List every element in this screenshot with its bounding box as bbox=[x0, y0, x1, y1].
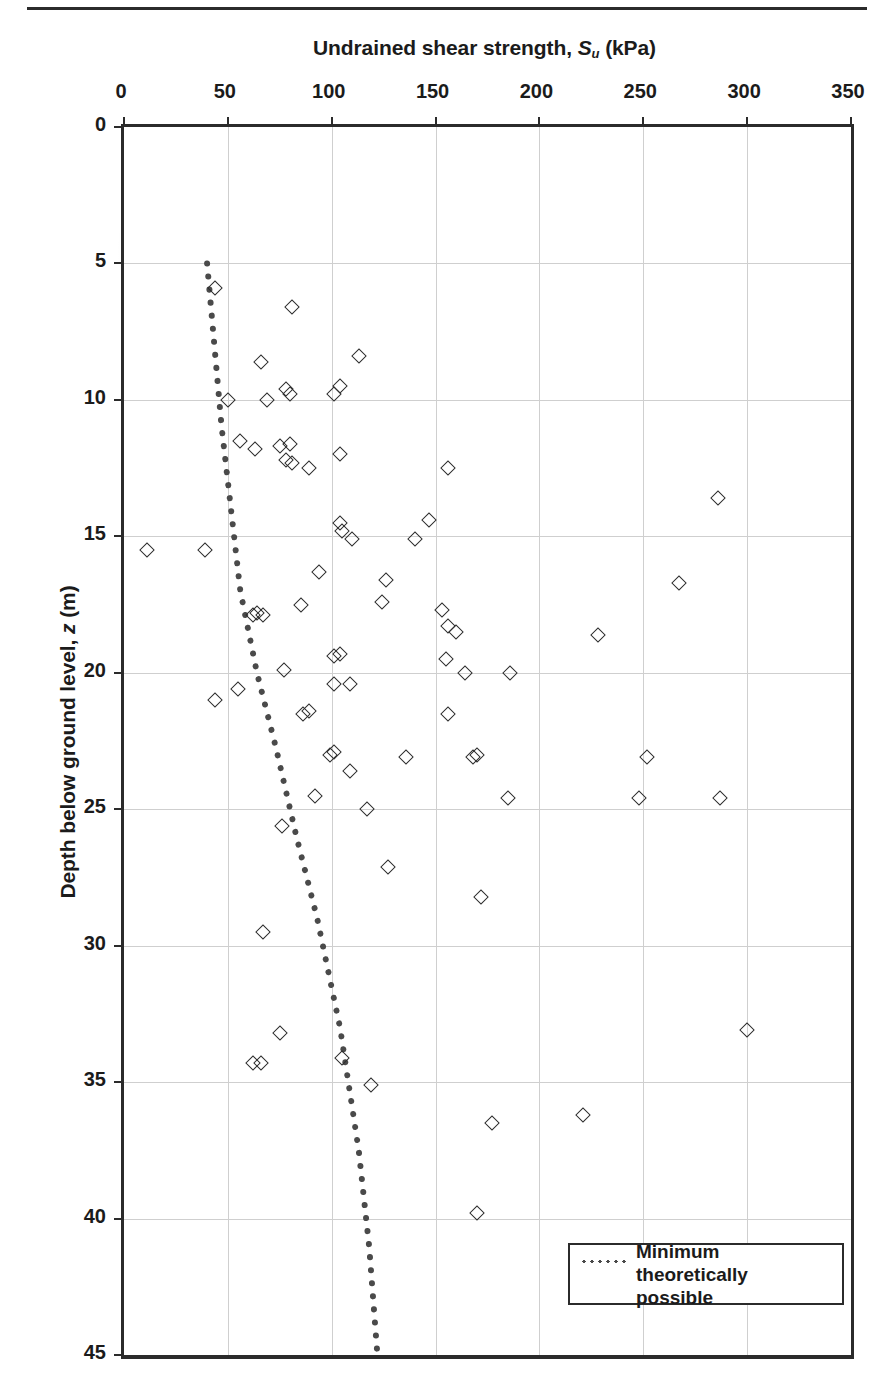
x-axis-title-pre: Undrained shear strength, bbox=[313, 36, 578, 59]
y-tick-label-0: 0 bbox=[60, 113, 106, 136]
gridline-vertical bbox=[332, 127, 333, 1355]
data-point-marker bbox=[208, 280, 224, 296]
y-tick-label-5: 5 bbox=[60, 249, 106, 272]
y-axis-tick bbox=[114, 1354, 124, 1356]
y-axis-tick bbox=[114, 1081, 124, 1083]
data-point-marker bbox=[407, 531, 423, 547]
y-axis-tick bbox=[114, 262, 124, 264]
y-tick-label-10: 10 bbox=[60, 385, 106, 408]
legend-label: Minimum theoretically possible bbox=[636, 1240, 832, 1309]
y-axis-title-symbol: z bbox=[56, 624, 79, 634]
data-point-marker bbox=[712, 791, 728, 807]
data-point-marker bbox=[247, 441, 263, 457]
y-axis-tick bbox=[114, 1218, 124, 1220]
data-point-marker bbox=[260, 392, 276, 408]
plot-inner: Minimum theoretically possible bbox=[124, 127, 851, 1355]
x-axis-tick bbox=[435, 117, 437, 127]
data-point-marker bbox=[208, 692, 224, 708]
data-point-marker bbox=[374, 594, 390, 610]
x-axis-title-post: (kPa) bbox=[599, 36, 656, 59]
data-point-marker bbox=[631, 791, 647, 807]
chart-legend: Minimum theoretically possible bbox=[568, 1243, 844, 1305]
data-point-marker bbox=[343, 763, 359, 779]
x-tick-label-200: 200 bbox=[520, 80, 553, 103]
top-horizontal-rule bbox=[27, 7, 867, 10]
plot-area: Minimum theoretically possible bbox=[121, 124, 854, 1359]
data-point-marker bbox=[311, 564, 327, 580]
data-point-marker bbox=[399, 750, 415, 766]
y-axis-tick bbox=[114, 535, 124, 537]
y-tick-label-40: 40 bbox=[60, 1204, 106, 1227]
x-tick-label-300: 300 bbox=[727, 80, 760, 103]
data-point-marker bbox=[671, 575, 687, 591]
y-axis-tick bbox=[114, 672, 124, 674]
gridline-vertical bbox=[436, 127, 437, 1355]
y-tick-label-25: 25 bbox=[60, 795, 106, 818]
data-point-marker bbox=[220, 392, 236, 408]
x-axis-tick bbox=[642, 117, 644, 127]
x-axis-title-symbol: S bbox=[578, 36, 592, 59]
data-point-marker bbox=[351, 348, 367, 364]
gridline-horizontal bbox=[124, 1219, 851, 1220]
x-tick-label-350: 350 bbox=[831, 80, 864, 103]
x-tick-label-50: 50 bbox=[214, 80, 236, 103]
y-axis-title: Depth below ground level, z (m) bbox=[56, 422, 80, 1062]
x-axis-tick bbox=[850, 117, 852, 127]
y-axis-tick bbox=[114, 808, 124, 810]
data-point-marker bbox=[334, 1050, 350, 1066]
data-point-marker bbox=[440, 706, 456, 722]
x-tick-label-100: 100 bbox=[312, 80, 345, 103]
chart-page: Undrained shear strength, Su (kPa) Depth… bbox=[0, 0, 894, 1394]
data-point-marker bbox=[438, 651, 454, 667]
data-point-marker bbox=[503, 665, 519, 681]
data-point-marker bbox=[380, 859, 396, 875]
data-point-marker bbox=[473, 889, 489, 905]
legend-label-line2: possible bbox=[636, 1287, 713, 1308]
gridline-horizontal bbox=[124, 1082, 851, 1083]
data-point-marker bbox=[276, 662, 292, 678]
x-tick-label-0: 0 bbox=[115, 80, 126, 103]
data-point-marker bbox=[457, 665, 473, 681]
gridline-horizontal bbox=[124, 809, 851, 810]
data-point-marker bbox=[139, 542, 155, 558]
x-axis-tick bbox=[746, 117, 748, 127]
y-axis-title-post: (m) bbox=[56, 585, 79, 623]
data-point-marker bbox=[575, 1107, 591, 1123]
data-point-marker bbox=[710, 490, 726, 506]
gridline-horizontal bbox=[124, 673, 851, 674]
y-axis-tick bbox=[114, 945, 124, 947]
minimum-theoretical-line bbox=[124, 127, 851, 1355]
data-point-marker bbox=[255, 924, 271, 940]
data-point-marker bbox=[197, 542, 213, 558]
data-point-marker bbox=[332, 447, 348, 463]
legend-dotted-line-icon bbox=[580, 1259, 628, 1264]
data-point-marker bbox=[739, 1022, 755, 1038]
y-axis-tick bbox=[114, 126, 124, 128]
y-tick-label-30: 30 bbox=[60, 931, 106, 954]
y-axis-tick bbox=[114, 399, 124, 401]
gridline-vertical bbox=[228, 127, 229, 1355]
data-point-marker bbox=[640, 750, 656, 766]
x-axis-tick bbox=[227, 117, 229, 127]
gridline-vertical bbox=[539, 127, 540, 1355]
data-point-marker bbox=[253, 354, 269, 370]
data-point-marker bbox=[440, 460, 456, 476]
y-tick-label-35: 35 bbox=[60, 1068, 106, 1091]
data-point-marker bbox=[272, 1025, 288, 1041]
data-point-marker bbox=[484, 1115, 500, 1131]
legend-label-line1: Minimum theoretically bbox=[636, 1241, 748, 1285]
data-point-marker bbox=[293, 597, 309, 613]
data-point-marker bbox=[343, 676, 359, 692]
gridline-horizontal bbox=[124, 536, 851, 537]
data-point-marker bbox=[326, 676, 342, 692]
y-tick-label-45: 45 bbox=[60, 1341, 106, 1364]
data-point-marker bbox=[274, 818, 290, 834]
y-tick-label-15: 15 bbox=[60, 522, 106, 545]
data-point-marker bbox=[359, 801, 375, 817]
y-tick-label-20: 20 bbox=[60, 658, 106, 681]
data-point-marker bbox=[378, 572, 394, 588]
data-point-marker bbox=[284, 299, 300, 315]
data-point-marker bbox=[301, 460, 317, 476]
data-point-marker bbox=[230, 681, 246, 697]
gridline-horizontal bbox=[124, 263, 851, 264]
